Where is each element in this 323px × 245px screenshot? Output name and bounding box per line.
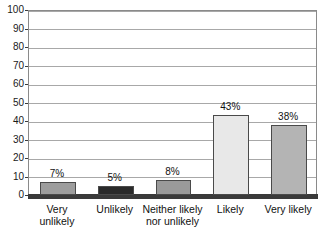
x-axis-category-label: Likely [197,203,263,215]
y-axis-tick-label: 90 [0,24,24,34]
y-axis-tick-label: 80 [0,42,24,52]
x-axis-category-label: Neither likely nor unlikely [140,203,206,227]
y-axis-tick-label: 10 [0,172,24,182]
bar [156,180,192,195]
bar [213,115,249,195]
y-axis-tick-label: 100 [0,5,24,15]
bar-value-label: 43% [210,102,250,112]
y-axis-tick-label: 60 [0,79,24,89]
y-axis: 0102030405060708090100 [0,0,24,245]
y-axis-tick-label: 0 [0,190,24,200]
x-axis-category-label: Unlikely [82,203,148,215]
bar [271,125,307,195]
bar-value-label: 5% [95,173,135,183]
y-axis-tick-label: 20 [0,153,24,163]
bar-value-label: 8% [153,167,193,177]
x-axis-category-label: Very unlikely [24,203,90,227]
bar-chart: 0102030405060708090100 7%Very unlikely5%… [0,0,323,245]
y-axis-tick-label: 70 [0,61,24,71]
y-axis-tick-label: 50 [0,98,24,108]
bar-value-label: 7% [37,169,77,179]
y-axis-tick-label: 40 [0,116,24,126]
x-axis-category-label: Very likely [255,203,321,215]
bar-value-label: 38% [268,112,308,122]
y-axis-tick-label: 30 [0,135,24,145]
bar [40,182,76,195]
bar [98,186,134,195]
